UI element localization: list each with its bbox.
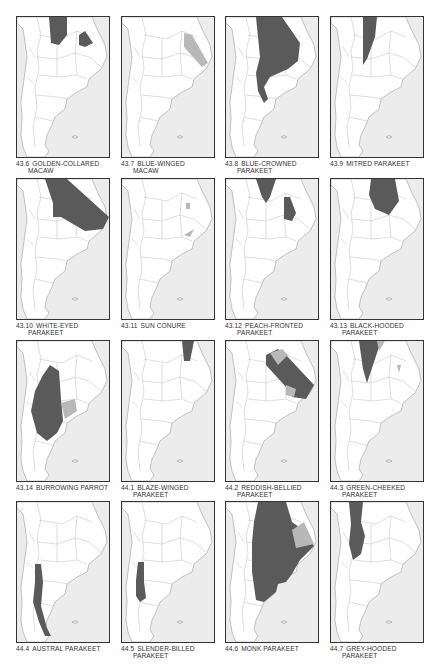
species-name-line2: PARAKEET: [16, 329, 110, 336]
map-number: 43.12: [225, 322, 242, 329]
map-panel-43-6: 43.6GOLDEN-COLLARED MACAW: [16, 16, 110, 174]
map-caption: 44.6MONK PARAKEET: [225, 645, 319, 652]
map-number: 44.3: [330, 484, 343, 491]
map-caption: 43.10WHITE-EYED PARAKEET: [16, 322, 110, 336]
species-name-line2: PARAKEET: [225, 491, 319, 498]
map-number: 43.7: [121, 160, 134, 167]
map-frame: [16, 501, 110, 643]
map-panel-43-7: 43.7BLUE-WINGED MACAW: [121, 16, 215, 174]
map-number: 43.9: [330, 160, 343, 167]
argentina-map-icon: [17, 341, 109, 481]
map-frame: [121, 501, 215, 643]
argentina-map-icon: [122, 502, 214, 642]
map-frame: [121, 178, 215, 320]
map-frame: [16, 16, 110, 158]
map-panel-44-2: 44.2REDDISH-BELLIED PARAKEET: [225, 340, 319, 498]
species-name: BURROWING PARROT: [36, 484, 108, 491]
map-panel-44-1: 44.1BLAZE-WINGED PARAKEET: [121, 340, 215, 498]
map-caption: 43.7BLUE-WINGED MACAW: [121, 160, 215, 174]
species-name: MONK PARAKEET: [241, 645, 299, 652]
map-frame: [225, 16, 319, 158]
map-panel-44-7: 44.7GREY-HOODED PARAKEET: [330, 501, 424, 659]
map-number: 44.6: [225, 645, 238, 652]
map-caption: 43.12PEACH-FRONTED PARAKEET: [225, 322, 319, 336]
species-name-line2: PARAKEET: [225, 329, 319, 336]
argentina-map-icon: [331, 341, 423, 481]
map-frame: [330, 16, 424, 158]
argentina-map-icon: [331, 179, 423, 319]
argentina-map-icon: [122, 17, 214, 157]
species-name: BLUE-CROWNED: [241, 160, 296, 167]
map-frame: [225, 178, 319, 320]
map-caption: 44.5SLENDER-BILLED PARAKEET: [121, 645, 215, 659]
map-frame: [16, 340, 110, 482]
argentina-map-icon: [122, 341, 214, 481]
map-number: 44.2: [225, 484, 238, 491]
argentina-map-icon: [17, 179, 109, 319]
map-panel-43-13: 43.13BLACK-HOODED PARAKEET: [330, 178, 424, 336]
map-panel-44-6: 44.6MONK PARAKEET: [225, 501, 319, 652]
species-name: SLENDER-BILLED: [137, 645, 194, 652]
species-name-line2: PARAKEET: [330, 329, 424, 336]
map-caption: 43.11SUN CONURE: [121, 322, 215, 329]
map-frame: [330, 501, 424, 643]
map-panel-43-9: 43.9MITRED PARAKEET: [330, 16, 424, 167]
map-caption: 43.6GOLDEN-COLLARED MACAW: [16, 160, 110, 174]
argentina-map-icon: [226, 341, 318, 481]
species-name: WHITE-EYED: [36, 322, 78, 329]
species-name-line2: PARAKEET: [121, 491, 215, 498]
map-panel-44-5: 44.5SLENDER-BILLED PARAKEET: [121, 501, 215, 659]
map-panel-43-11: 43.11SUN CONURE: [121, 178, 215, 329]
map-caption: 44.2REDDISH-BELLIED PARAKEET: [225, 484, 319, 498]
map-frame: [330, 178, 424, 320]
map-caption: 43.9MITRED PARAKEET: [330, 160, 424, 167]
argentina-map-icon: [17, 502, 109, 642]
map-number: 43.14: [16, 484, 33, 491]
map-panel-43-10: 43.10WHITE-EYED PARAKEET: [16, 178, 110, 336]
map-caption: 44.3GREEN-CHEEKED PARAKEET: [330, 484, 424, 498]
argentina-map-icon: [226, 17, 318, 157]
argentina-map-icon: [331, 17, 423, 157]
map-number: 43.10: [16, 322, 33, 329]
argentina-map-icon: [226, 502, 318, 642]
map-frame: [330, 340, 424, 482]
map-caption: 44.7GREY-HOODED PARAKEET: [330, 645, 424, 659]
map-number: 43.13: [330, 322, 347, 329]
map-panel-44-4: 44.4AUSTRAL PARAKEET: [16, 501, 110, 652]
map-number: 44.7: [330, 645, 343, 652]
argentina-map-icon: [122, 179, 214, 319]
map-caption: 43.8BLUE-CROWNED PARAKEET: [225, 160, 319, 174]
map-number: 43.8: [225, 160, 238, 167]
map-caption: 43.14BURROWING PARROT: [16, 484, 110, 491]
argentina-map-icon: [226, 179, 318, 319]
map-panel-43-8: 43.8BLUE-CROWNED PARAKEET: [225, 16, 319, 174]
species-name: REDDISH-BELLIED: [241, 484, 302, 491]
species-name: GREY-HOODED: [346, 645, 396, 652]
map-frame: [16, 178, 110, 320]
map-caption: 44.4AUSTRAL PARAKEET: [16, 645, 110, 652]
species-name: GOLDEN-COLLARED: [32, 160, 99, 167]
map-panel-43-12: 43.12PEACH-FRONTED PARAKEET: [225, 178, 319, 336]
map-frame: [121, 16, 215, 158]
map-number: 43.6: [16, 160, 29, 167]
species-name-line2: PARAKEET: [121, 652, 215, 659]
species-name: BLAZE-WINGED: [137, 484, 188, 491]
map-frame: [121, 340, 215, 482]
species-name: BLACK-HOODED: [350, 322, 404, 329]
species-name: BLUE-WINGED: [137, 160, 185, 167]
map-number: 43.11: [121, 322, 138, 329]
map-panel-43-14: 43.14BURROWING PARROT: [16, 340, 110, 491]
species-name: GREEN-CHEEKED: [346, 484, 405, 491]
map-number: 44.1: [121, 484, 134, 491]
species-name: AUSTRAL PARAKEET: [32, 645, 100, 652]
species-name-line2: PARAKEET: [330, 491, 424, 498]
species-name-line2: MACAW: [121, 167, 215, 174]
species-name-line2: PARAKEET: [330, 652, 424, 659]
argentina-map-icon: [331, 502, 423, 642]
map-number: 44.5: [121, 645, 134, 652]
map-caption: 43.13BLACK-HOODED PARAKEET: [330, 322, 424, 336]
species-name: PEACH-FRONTED: [245, 322, 303, 329]
argentina-map-icon: [17, 17, 109, 157]
species-name: MITRED PARAKEET: [346, 160, 409, 167]
species-name-line2: PARAKEET: [225, 167, 319, 174]
